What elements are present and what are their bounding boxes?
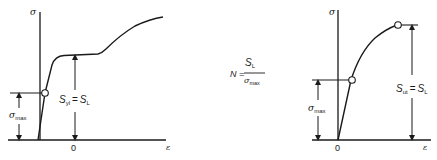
formula-lhs: N = xyxy=(230,69,244,79)
safety-factor-formula: N = SL σmax xyxy=(230,57,265,86)
right-ultimate-strength-label: Sut=SL xyxy=(396,83,428,95)
right-stress-strain-curve xyxy=(338,25,397,140)
right-origin-label: 0 xyxy=(335,143,340,153)
right-x-axis-label: ε xyxy=(423,143,427,152)
left-chart: σmax Syl=SL σ 0 ε xyxy=(8,7,170,153)
left-y-axis-label: σ xyxy=(30,7,37,17)
left-yield-strength-label: Syl=SL xyxy=(59,94,91,106)
stress-strain-diagram: σmax Syl=SL σ 0 ε N = SL σmax σmax Sut=S… xyxy=(0,0,437,160)
right-chart: σmax Sut=SL σ 0 ε xyxy=(308,7,431,153)
right-y-axis-label: σ xyxy=(329,7,336,17)
right-fracture-point-marker xyxy=(395,22,402,29)
left-origin-label: 0 xyxy=(71,143,76,153)
formula-numerator: SL xyxy=(245,57,256,69)
left-stress-strain-curve xyxy=(38,17,163,140)
right-working-point-marker xyxy=(349,77,356,84)
left-sigma-max-label: σmax xyxy=(9,110,27,121)
left-working-point-marker xyxy=(42,90,49,97)
formula-denominator: σmax xyxy=(244,76,260,86)
right-sigma-max-label: σmax xyxy=(308,103,326,114)
left-x-axis-label: ε xyxy=(166,143,170,152)
